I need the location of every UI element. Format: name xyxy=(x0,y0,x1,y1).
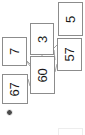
node-5-label: 5 xyxy=(64,16,77,23)
status-dot-icon[interactable] xyxy=(6,109,13,116)
diagram-canvas: 5 3 57 7 60 67 xyxy=(0,0,85,135)
node-7[interactable]: 7 xyxy=(2,37,27,66)
node-5[interactable]: 5 xyxy=(58,2,83,36)
node-57[interactable]: 57 xyxy=(57,38,82,71)
ghost-node-bottom xyxy=(58,128,83,135)
node-3-label: 3 xyxy=(36,36,49,43)
node-7-label: 7 xyxy=(8,48,21,55)
node-67[interactable]: 67 xyxy=(2,74,28,104)
node-3[interactable]: 3 xyxy=(30,23,54,55)
node-60-label: 60 xyxy=(36,68,49,82)
node-67-label: 67 xyxy=(9,82,22,96)
node-57-label: 57 xyxy=(63,48,76,62)
node-60[interactable]: 60 xyxy=(30,56,55,94)
